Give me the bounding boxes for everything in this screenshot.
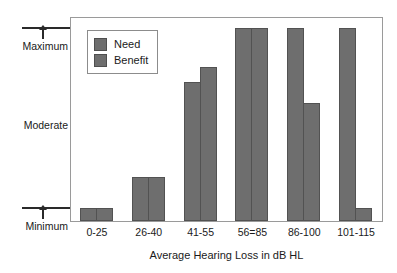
bar-group bbox=[235, 18, 269, 221]
bar-group bbox=[287, 18, 321, 221]
x-tick-label: 101-115 bbox=[337, 226, 375, 239]
y-axis-label-minimum: Minimum bbox=[0, 220, 68, 232]
bar-group bbox=[339, 18, 373, 221]
y-axis: Maximum Moderate Minimum bbox=[0, 0, 70, 232]
hearing-loss-bar-chart: Maximum Moderate Minimum Need Benefit bbox=[0, 0, 397, 273]
x-axis-title: Average Hearing Loss in dB HL bbox=[70, 249, 383, 262]
legend-label-need: Need bbox=[114, 38, 140, 51]
bar-benefit bbox=[200, 67, 217, 221]
bar-need bbox=[80, 208, 97, 222]
legend-swatch-need bbox=[94, 38, 107, 51]
bar-need bbox=[184, 82, 201, 221]
bar-need bbox=[132, 177, 149, 221]
y-axis-label-moderate: Moderate bbox=[0, 119, 68, 131]
legend-label-benefit: Benefit bbox=[114, 54, 148, 67]
legend-item-benefit: Benefit bbox=[94, 52, 148, 68]
bar-benefit bbox=[251, 28, 268, 221]
minimum-arrow-icon bbox=[42, 209, 44, 219]
x-axis-tick-labels: 0-2526-4041-5556=8586-100101-115 bbox=[70, 226, 383, 242]
legend-item-need: Need bbox=[94, 36, 148, 52]
legend-swatch-benefit bbox=[94, 54, 107, 67]
x-tick-label: 26-40 bbox=[135, 226, 162, 239]
x-tick-label: 41-55 bbox=[187, 226, 214, 239]
plot-area: Need Benefit bbox=[70, 17, 383, 222]
bar-benefit bbox=[148, 177, 165, 221]
bar-group bbox=[184, 18, 218, 221]
bar-benefit bbox=[303, 103, 320, 221]
chart-legend: Need Benefit bbox=[87, 30, 158, 74]
bar-need bbox=[287, 28, 304, 221]
x-tick-label: 0-25 bbox=[86, 226, 107, 239]
bar-benefit bbox=[355, 208, 372, 222]
bar-need bbox=[235, 28, 252, 221]
x-tick-label: 86-100 bbox=[288, 226, 321, 239]
bar-need bbox=[339, 28, 356, 221]
maximum-arrow-icon bbox=[42, 29, 44, 39]
y-axis-label-maximum: Maximum bbox=[0, 40, 68, 52]
x-tick-label: 56=85 bbox=[238, 226, 268, 239]
bar-benefit bbox=[96, 208, 113, 222]
